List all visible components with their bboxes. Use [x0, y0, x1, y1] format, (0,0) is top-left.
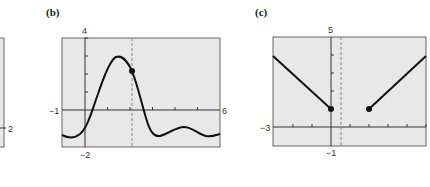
- panel-c-ymin-label: −1: [326, 148, 336, 158]
- panel-b-ymax-label: 4: [82, 26, 87, 36]
- panel-c-label: (c): [255, 6, 268, 19]
- panel-c-ymax-label: 5: [328, 25, 333, 35]
- panel-b: (b) 4 −1 6 −2: [46, 6, 227, 160]
- panel-b-xmax-label: 6: [222, 106, 227, 116]
- figure-canvas: 2 (b) 4 −1 6 −2 (c): [0, 0, 430, 187]
- panel-a: 2: [0, 38, 13, 147]
- panel-c-xmin-label: −3: [260, 123, 270, 133]
- panel-c-left-endpoint: [328, 106, 334, 112]
- panel-a-xmax-label: 2: [8, 124, 13, 134]
- panel-b-label: (b): [46, 6, 60, 19]
- panel-c: (c) 5 −3 −1: [255, 6, 426, 158]
- panel-c-window: [273, 37, 426, 146]
- panel-b-xmin-label: −1: [49, 106, 59, 116]
- panel-a-window: [0, 38, 4, 147]
- panel-b-point: [129, 68, 135, 74]
- panel-c-right-endpoint: [366, 106, 372, 112]
- panel-b-ymin-label: −2: [80, 150, 90, 160]
